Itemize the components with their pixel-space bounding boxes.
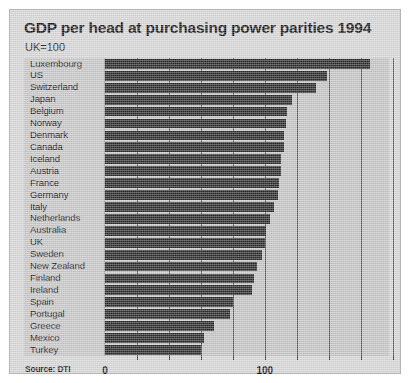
- bar: [105, 107, 287, 117]
- bar-row: Finland: [24, 273, 389, 285]
- category-label: US: [30, 69, 43, 81]
- category-label: Mexico: [30, 332, 60, 344]
- bar-row: US: [24, 70, 389, 82]
- bar-row: Austria: [24, 165, 389, 177]
- bar-row: Japan: [24, 94, 389, 106]
- axis-tick: [361, 356, 362, 360]
- bar: [105, 321, 214, 331]
- category-label: Japan: [30, 93, 55, 105]
- bar: [105, 226, 266, 236]
- bar: [105, 142, 284, 152]
- chart-title: GDP per head at purchasing power paritie…: [24, 19, 371, 37]
- bar: [105, 250, 262, 260]
- category-label: Finland: [30, 272, 60, 284]
- category-label: Belgium: [30, 105, 64, 117]
- category-label: Turkey: [30, 344, 58, 356]
- bar-row: Mexico: [24, 332, 389, 344]
- bar-row: Italy: [24, 201, 389, 213]
- bar: [105, 285, 252, 295]
- bar: [105, 345, 201, 355]
- axis-tick-label: 100: [256, 365, 273, 376]
- category-label: Spain: [30, 296, 54, 308]
- category-label: Germany: [30, 189, 68, 201]
- bar-row: France: [24, 177, 389, 189]
- category-label: Sweden: [30, 248, 64, 260]
- bar-row: Sweden: [24, 249, 389, 261]
- category-label: Iceland: [30, 153, 60, 165]
- axis-tick: [393, 356, 394, 360]
- bar-row: Denmark: [24, 130, 389, 142]
- bar: [105, 71, 327, 81]
- axis-tick: [265, 356, 266, 360]
- bar-row: Luxembourg: [24, 58, 389, 70]
- bar: [105, 238, 265, 248]
- bar: [105, 190, 278, 200]
- bar-row: New Zealand: [24, 261, 389, 273]
- category-label: France: [30, 177, 59, 189]
- axis-tick: [297, 356, 298, 360]
- axis-tick: [233, 356, 234, 360]
- category-label: Austria: [30, 165, 59, 177]
- axis-tick: [169, 356, 170, 360]
- category-label: Greece: [30, 320, 61, 332]
- category-label: Denmark: [30, 129, 68, 141]
- bar: [105, 262, 257, 272]
- bar-row: Ireland: [24, 284, 389, 296]
- bar: [105, 297, 233, 307]
- bar: [105, 274, 254, 284]
- bar-row: Greece: [24, 320, 389, 332]
- axis-tick: [201, 356, 202, 360]
- source-note: Source: DTI: [25, 364, 70, 374]
- bar-row: Iceland: [24, 153, 389, 165]
- bar: [105, 119, 286, 129]
- bar-row: Spain: [24, 296, 389, 308]
- bar: [105, 83, 316, 93]
- axis-tick: [329, 356, 330, 360]
- category-label: Ireland: [30, 284, 58, 296]
- chart-subtitle: UK=100: [25, 41, 65, 53]
- category-label: Canada: [30, 141, 63, 153]
- bar-row: Norway: [24, 118, 389, 130]
- bar: [105, 309, 230, 319]
- bar: [105, 178, 279, 188]
- bar: [105, 333, 204, 343]
- bar: [105, 202, 274, 212]
- bar-row: Germany: [24, 189, 389, 201]
- bar-row: Netherlands: [24, 213, 389, 225]
- bar-row: UK: [24, 237, 389, 249]
- bar-row: Belgium: [24, 106, 389, 118]
- bar: [105, 154, 281, 164]
- category-label: UK: [30, 236, 43, 248]
- bar-row: Canada: [24, 141, 389, 153]
- bar: [105, 95, 292, 105]
- category-label: Australia: [30, 224, 66, 236]
- x-axis: [24, 356, 389, 359]
- category-label: Norway: [30, 117, 62, 129]
- category-label: Netherlands: [30, 212, 80, 224]
- bar: [105, 59, 370, 69]
- bar: [105, 131, 284, 141]
- bar-row: Australia: [24, 225, 389, 237]
- category-label: Portugal: [30, 308, 65, 320]
- category-label: Luxembourg: [30, 58, 82, 70]
- category-label: New Zealand: [30, 260, 85, 272]
- bar-row: Switzerland: [24, 82, 389, 94]
- axis-tick: [137, 356, 138, 360]
- bar: [105, 166, 281, 176]
- bar-row: Turkey: [24, 344, 389, 356]
- chart-figure: GDP per head at purchasing power paritie…: [9, 9, 401, 374]
- axis-tick-label: 0: [102, 365, 108, 376]
- bar-row: Portugal: [24, 308, 389, 320]
- category-label: Switzerland: [30, 81, 78, 93]
- bar: [105, 214, 270, 224]
- plot-area: LuxembourgUSSwitzerlandJapanBelgiumNorwa…: [24, 58, 389, 356]
- category-label: Italy: [30, 201, 47, 213]
- gridline: [393, 58, 394, 356]
